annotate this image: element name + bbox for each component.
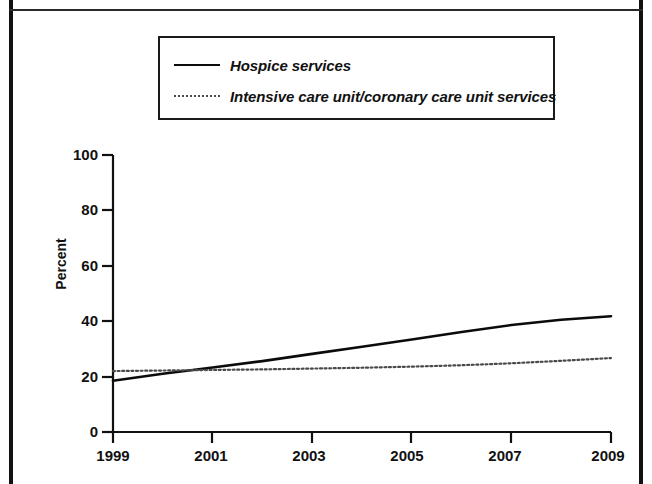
series-line-icu-ccu-services [113, 358, 611, 371]
plot-area: Percent 100 80 60 40 20 0 1999 2001 2003… [0, 0, 652, 484]
chart-page: Hospice services Intensive care unit/cor… [0, 0, 652, 484]
y-axis-ticks [102, 155, 113, 432]
x-axis-ticks [113, 432, 611, 443]
chart-canvas [0, 0, 652, 484]
